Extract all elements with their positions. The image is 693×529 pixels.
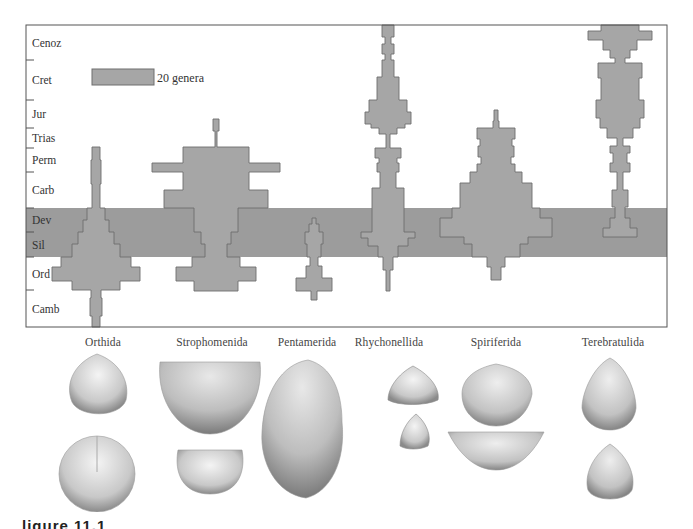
period-label-dev: Dev xyxy=(32,214,51,226)
rhychonellida-shell-lower xyxy=(400,414,429,449)
strophomenida-shell-upper xyxy=(160,362,261,434)
period-label-jur: Jur xyxy=(32,108,46,120)
order-label-pentamerida: Pentamerida xyxy=(278,336,337,348)
dev-sil-band-rect xyxy=(26,208,667,257)
order-label-strophomenida: Strophomenida xyxy=(176,336,248,348)
period-label-ord: Ord xyxy=(32,268,50,280)
orthida-shell-upper xyxy=(70,354,127,414)
spindle-terebratulida xyxy=(588,25,652,237)
spiriferida-shell-upper xyxy=(462,364,532,426)
period-label-cenoz: Cenoz xyxy=(32,37,61,49)
shell-illustrations-left xyxy=(50,352,490,512)
range-spindle-chart: CenozCretJurTriasPermCarbDevSilOrdCamb 2… xyxy=(0,0,693,330)
shell-illustrations-right xyxy=(440,352,680,512)
legend-swatch xyxy=(92,69,154,85)
period-label-sil: Sil xyxy=(32,239,45,251)
period-label-cret: Cret xyxy=(32,74,53,86)
terebratulida-shell-lower xyxy=(587,444,633,499)
spindle-strophomenida xyxy=(152,119,280,291)
period-label-camb: Camb xyxy=(32,303,60,315)
order-label-orthida: Orthida xyxy=(85,336,121,348)
pentamerida-shell xyxy=(262,360,343,498)
terebratulida-shell-upper xyxy=(582,358,636,430)
figure-caption-fragment: ligure 11.1 xyxy=(22,517,106,529)
order-label-spiriferida: Spiriferida xyxy=(471,336,521,348)
strophomenida-shell-lower xyxy=(177,450,243,494)
period-label-perm: Perm xyxy=(32,154,56,166)
rhychonellida-shell-upper xyxy=(388,366,438,405)
orthida-shell-lower xyxy=(59,436,135,512)
order-label-rhychonellida: Rhychonellida xyxy=(355,336,423,348)
spiriferida-shell-lower xyxy=(448,432,544,470)
legend-label: 20 genera xyxy=(157,71,205,85)
devonian-silurian-band xyxy=(26,208,667,257)
period-label-trias: Trias xyxy=(32,132,56,144)
period-label-carb: Carb xyxy=(32,184,55,196)
order-label-terebratulida: Terebratulida xyxy=(582,336,644,348)
legend: 20 genera xyxy=(92,69,205,85)
